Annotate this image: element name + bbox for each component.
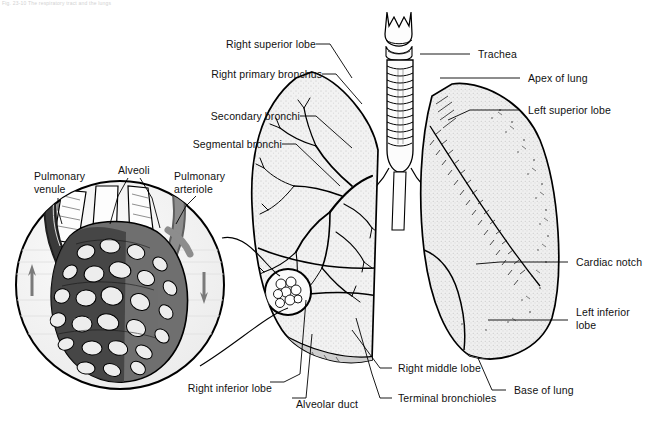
- label-right-primary-bronchus: Right primary bronchus: [130, 68, 322, 81]
- label-right-middle-lobe: Right middle lobe: [398, 362, 481, 375]
- figure-canvas: Fig. 23-10 The respiratory tract and the…: [0, 0, 662, 434]
- label-right-superior-lobe: Right superior lobe: [140, 38, 316, 51]
- label-cardiac-notch: Cardiac notch: [576, 256, 642, 269]
- label-trachea: Trachea: [478, 48, 517, 61]
- label-base-of-lung: Base of lung: [514, 384, 574, 397]
- left-lung: [421, 83, 559, 368]
- label-apex-of-lung: Apex of lung: [528, 72, 588, 85]
- label-alveoli: Alveoli: [118, 164, 150, 177]
- label-left-superior-lobe: Left superior lobe: [528, 104, 611, 117]
- label-pulmonary-venule: Pulmonary venule: [34, 170, 85, 195]
- label-secondary-bronchi: Secondary bronchi: [130, 110, 300, 123]
- alveolar-capillary-inset: [16, 178, 224, 389]
- anatomy-illustration: [0, 0, 662, 434]
- label-right-inferior-lobe: Right inferior lobe: [150, 382, 272, 395]
- label-pulmonary-arteriole: Pulmonary arteriole: [174, 170, 225, 195]
- label-left-inferior-lobe: Left inferior lobe: [576, 306, 630, 331]
- label-terminal-bronchioles: Terminal bronchioles: [398, 392, 496, 405]
- label-segmental-bronchi: Segmental bronchi: [122, 138, 282, 151]
- label-alveolar-duct: Alveolar duct: [296, 398, 358, 411]
